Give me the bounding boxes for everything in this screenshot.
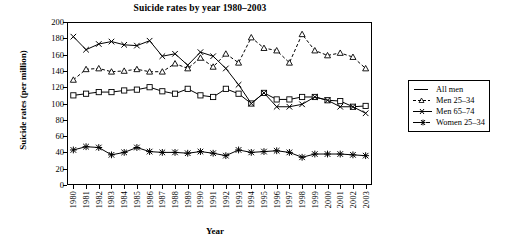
x-tick-mark — [264, 185, 265, 189]
x-tick-mark — [86, 185, 87, 189]
data-point-x — [210, 53, 216, 59]
legend-key-men-65-74 — [412, 106, 434, 117]
x-tick-label: 1985 — [133, 191, 142, 208]
data-point-square — [83, 91, 88, 96]
data-point-square — [147, 85, 152, 90]
data-point-square — [71, 93, 76, 98]
legend-item-all-men[interactable]: All men — [412, 84, 485, 95]
x-tick-mark — [111, 185, 112, 189]
plot-area — [67, 22, 372, 185]
y-tick-label: 160 — [42, 50, 64, 60]
x-tick-label: 1982 — [95, 191, 104, 208]
data-point-triangle — [248, 34, 254, 39]
data-point-square — [134, 87, 139, 92]
series-line — [73, 147, 365, 158]
legend-label-men-25-34: Men 25–34 — [434, 96, 474, 105]
legend-label-men-65-74: Men 65–74 — [434, 107, 474, 116]
x-tick-mark — [226, 185, 227, 189]
y-tick-label: 180 — [42, 33, 64, 43]
data-point-square — [338, 98, 343, 103]
data-point-triangle — [299, 31, 305, 36]
x-tick-label: 1998 — [298, 191, 307, 208]
x-tick-mark — [315, 185, 316, 189]
data-point-triangle — [312, 48, 318, 53]
x-tick-label: 1980 — [69, 191, 78, 208]
data-point-triangle — [223, 51, 229, 56]
data-point-x — [236, 82, 242, 88]
x-tick-label: 1988 — [171, 191, 180, 208]
x-tick-mark — [213, 185, 214, 189]
x-tick-mark — [328, 185, 329, 189]
series-women-25-34 — [70, 143, 369, 160]
y-tick-label: 60 — [42, 131, 64, 141]
x-tick-label: 2001 — [336, 191, 345, 208]
series-all-men — [71, 85, 368, 110]
y-axis-ticks: 020406080100120140160180200 — [40, 22, 64, 185]
x-tick-label: 1986 — [146, 191, 155, 208]
legend-key-men-25-34 — [412, 95, 434, 106]
x-tick-label: 1996 — [273, 191, 282, 208]
x-tick-mark — [302, 185, 303, 189]
x-tick-label: 2002 — [349, 191, 358, 208]
x-tick-mark — [200, 185, 201, 189]
data-point-star — [248, 149, 255, 156]
x-tick-mark — [137, 185, 138, 189]
x-tick-label: 1981 — [82, 191, 91, 208]
x-tick-label: 2000 — [324, 191, 333, 208]
data-point-triangle — [197, 55, 203, 60]
x-tick-label: 1994 — [247, 191, 256, 208]
series-line — [73, 87, 365, 107]
data-point-star — [210, 150, 217, 157]
data-point-star — [261, 148, 268, 155]
data-point-square — [287, 97, 292, 102]
series-men-25-34 — [70, 31, 368, 82]
data-point-square — [274, 97, 279, 102]
x-tick-mark — [175, 185, 176, 189]
x-tick-mark — [239, 185, 240, 189]
legend-item-men-65-74[interactable]: Men 65–74 — [412, 106, 485, 117]
data-point-star — [133, 144, 140, 151]
y-tick-label: 0 — [42, 180, 64, 190]
data-point-triangle — [172, 61, 178, 66]
x-tick-mark — [73, 185, 74, 189]
x-tick-mark — [162, 185, 163, 189]
y-tick-label: 200 — [42, 17, 64, 27]
data-point-star — [337, 151, 344, 158]
x-tick-mark — [277, 185, 278, 189]
data-point-star — [286, 149, 293, 156]
x-tick-label: 1993 — [235, 191, 244, 208]
data-point-square — [223, 86, 228, 91]
legend-key-women-25-34 — [412, 117, 434, 128]
series-lines — [67, 22, 372, 185]
data-point-triangle — [236, 60, 242, 65]
data-point-triangle — [121, 68, 127, 73]
data-point-star — [70, 147, 77, 154]
x-tick-mark — [353, 185, 354, 189]
chart-legend: All men Men 25–34 Men 65–74 — [408, 80, 490, 132]
x-tick-label: 1999 — [311, 191, 320, 208]
data-point-square — [236, 91, 241, 96]
x-tick-label: 1983 — [107, 191, 116, 208]
data-point-star — [311, 151, 318, 158]
x-tick-label: 1989 — [184, 191, 193, 208]
data-point-square — [96, 89, 101, 94]
data-point-square — [363, 103, 368, 108]
x-tick-mark — [340, 185, 341, 189]
data-point-star — [222, 152, 229, 159]
x-axis-ticks: 1980198119821983198419851986198719881989… — [67, 185, 372, 243]
data-point-star — [121, 149, 128, 156]
x-tick-mark — [289, 185, 290, 189]
data-point-square — [198, 93, 203, 98]
y-tick-label: 120 — [42, 82, 64, 92]
data-point-star — [235, 147, 242, 154]
legend-item-men-25-34[interactable]: Men 25–34 — [412, 95, 485, 106]
legend-item-women-25-34[interactable]: Women 25–34 — [412, 117, 485, 128]
data-point-star — [172, 149, 179, 156]
data-point-square — [300, 94, 305, 99]
y-axis-title: Suicide rates (per million) — [18, 20, 28, 180]
data-point-star — [146, 148, 153, 155]
x-tick-mark — [99, 185, 100, 189]
data-point-star — [197, 148, 204, 155]
series-line — [73, 37, 365, 114]
data-point-star — [273, 147, 280, 154]
